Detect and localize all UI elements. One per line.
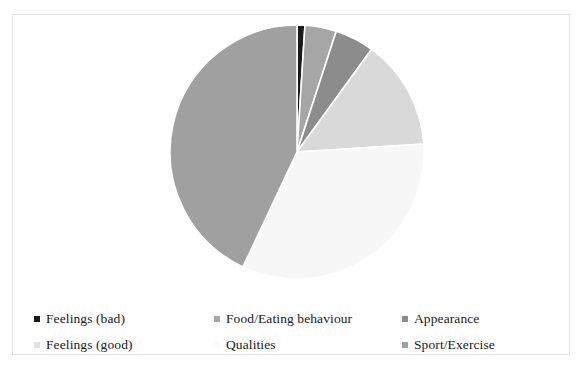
legend-item-feelings-bad[interactable]: Feelings (bad) [34,312,214,326]
pie-slices-group [170,25,424,279]
legend-swatch-icon [34,316,40,322]
legend-swatch-icon [402,342,408,348]
legend-item-appearance[interactable]: Appearance [402,312,544,326]
legend-item-label: Feelings (good) [46,338,133,352]
legend-item-label: Sport/Exercise [414,338,495,352]
pie-chart-plot-area [12,14,570,292]
legend-swatch-icon [214,342,220,348]
legend-item-label: Feelings (bad) [46,312,125,326]
legend-item-food-eating-behaviour[interactable]: Food/Eating behaviour [214,312,402,326]
legend-swatch-icon [214,316,220,322]
legend-item-label: Food/Eating behaviour [226,312,352,326]
pie-chart-svg [12,14,570,292]
legend-item-label: Qualities [226,338,276,352]
legend-swatch-icon [402,316,408,322]
chart-figure: Feelings (bad) Food/Eating behaviour App… [0,0,584,371]
legend-item-label: Appearance [414,312,479,326]
legend-item-qualities[interactable]: Qualities [214,338,402,352]
legend-item-sport-exercise[interactable]: Sport/Exercise [402,338,544,352]
legend-swatch-icon [34,342,40,348]
legend-item-feelings-good[interactable]: Feelings (good) [34,338,214,352]
chart-legend: Feelings (bad) Food/Eating behaviour App… [34,306,544,358]
